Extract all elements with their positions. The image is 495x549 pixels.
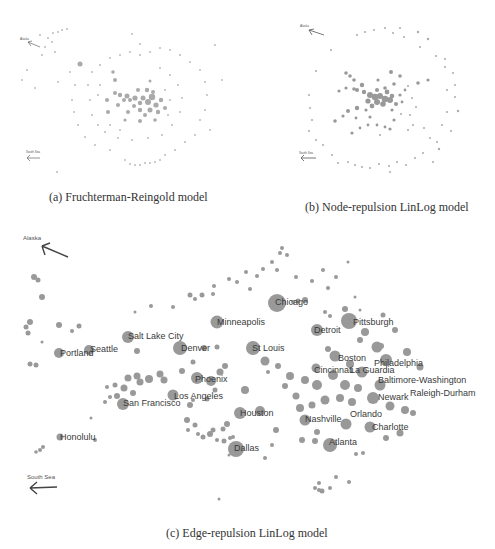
panel-c-edge-repulsion-linlog: Alaska South Sea	[0, 225, 495, 525]
svg-text:Denver: Denver	[181, 343, 210, 353]
panel-b-node-repulsion-linlog: Alaska South Sea	[250, 0, 495, 180]
svg-text:Nashville: Nashville	[305, 414, 342, 424]
direction-arrow-alaska-icon: Alaska	[23, 235, 68, 257]
svg-text:South Sea: South Sea	[26, 150, 40, 154]
svg-text:Alaska: Alaska	[300, 24, 309, 28]
svg-text:Alaska: Alaska	[23, 235, 42, 241]
svg-text:Los Angeles: Los Angeles	[174, 391, 224, 401]
svg-text:Raleigh-Durham: Raleigh-Durham	[410, 388, 476, 398]
direction-arrow-pacific-sea-icon: South Sea	[299, 151, 316, 161]
city-labels-c: Chicago Pittsburgh Minneapolis Detroit S…	[60, 297, 476, 453]
graph-layout-a: Alaska South Sea	[0, 0, 250, 180]
svg-text:Charlotte: Charlotte	[372, 422, 409, 432]
svg-text:Cincinnati: Cincinnati	[314, 365, 354, 375]
node-ring-a	[21, 28, 223, 173]
svg-text:Detroit: Detroit	[314, 325, 341, 335]
svg-text:Minneapolis: Minneapolis	[217, 317, 266, 327]
svg-text:Salt Lake City: Salt Lake City	[128, 331, 184, 341]
svg-text:Seattle: Seattle	[90, 344, 118, 354]
direction-arrow-alaska-icon: Alaska	[300, 24, 324, 35]
svg-text:Honolulu: Honolulu	[60, 432, 96, 442]
svg-text:Boston: Boston	[338, 353, 366, 363]
svg-text:Baltimore-Washington: Baltimore-Washington	[378, 375, 466, 385]
svg-text:Orlando: Orlando	[350, 409, 382, 419]
direction-arrow-south-sea-icon: South Sea	[26, 150, 40, 161]
svg-text:Alaska: Alaska	[20, 37, 29, 41]
caption-c: (c) Edge-repulsion LinLog model	[166, 526, 328, 541]
node-cloud-a	[78, 62, 168, 124]
svg-text:Portland: Portland	[60, 348, 94, 358]
svg-text:St Louis: St Louis	[252, 343, 285, 353]
svg-text:Phoenix: Phoenix	[195, 374, 228, 384]
svg-text:Dallas: Dallas	[234, 443, 260, 453]
caption-a: (a) Fruchterman-Reingold model	[49, 190, 208, 205]
graph-layout-c: Alaska South Sea	[0, 225, 495, 525]
graph-layout-b: Alaska South Sea	[250, 0, 495, 180]
node-cluster-b	[333, 70, 429, 135]
svg-text:La Guardia: La Guardia	[350, 365, 395, 375]
svg-text:South Sea: South Sea	[299, 151, 313, 155]
svg-text:Pittsburgh: Pittsburgh	[353, 317, 394, 327]
svg-text:Atlanta: Atlanta	[329, 437, 357, 447]
direction-arrow-south-sea-icon: South Sea	[27, 474, 57, 494]
svg-text:Newark: Newark	[378, 392, 409, 402]
svg-text:Chicago: Chicago	[275, 297, 308, 307]
direction-arrow-alaska-icon: Alaska	[20, 37, 40, 47]
panel-a-fruchterman-reingold: Alaska South Sea	[0, 0, 250, 180]
svg-text:South Sea: South Sea	[27, 474, 56, 480]
svg-text:Houston: Houston	[240, 408, 274, 418]
caption-b: (b) Node-repulsion LinLog model	[305, 200, 469, 215]
svg-text:San Francisco: San Francisco	[123, 398, 181, 408]
